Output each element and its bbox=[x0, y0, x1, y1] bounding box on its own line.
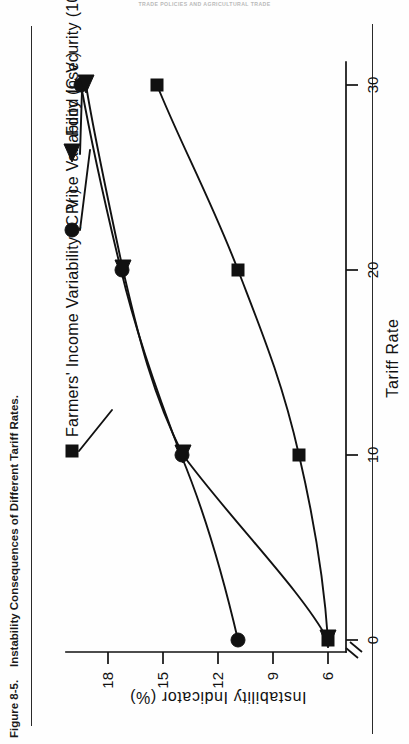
figure-caption: Figure 8-5. Instability Consequences of … bbox=[8, 395, 20, 738]
y-tick-label-15: 15 bbox=[154, 672, 171, 689]
chart-plot-area: 0 10 20 30 Tariff Rate 6 9 12 15 18 Inst… bbox=[46, 20, 398, 710]
x-ticks bbox=[346, 85, 358, 640]
x-tick-label-10: 10 bbox=[364, 447, 381, 464]
series-markers-farmers-income bbox=[151, 79, 334, 646]
y-tick-label-18: 18 bbox=[99, 672, 116, 689]
axis-break-marks bbox=[346, 642, 362, 658]
figure-caption-text: Instability Consequences of Different Ta… bbox=[8, 395, 20, 667]
y-ticks bbox=[108, 652, 328, 664]
figure-stage: Figure 8-5. Instability Consequences of … bbox=[0, 0, 409, 744]
legend-marker-square bbox=[66, 445, 78, 457]
x-tick-label-30: 30 bbox=[364, 77, 381, 94]
legend-leader-farmers bbox=[79, 410, 112, 451]
y-tick-label-6: 6 bbox=[319, 672, 336, 680]
y-tick-label-9: 9 bbox=[264, 672, 281, 680]
chart-svg: 0 10 20 30 Tariff Rate 6 9 12 15 18 Inst… bbox=[46, 20, 398, 710]
y-axis-title: Instability Indicator (%) bbox=[130, 689, 307, 706]
x-axis-title: Tariff Rate bbox=[384, 318, 401, 397]
x-tick-label-20: 20 bbox=[364, 262, 381, 279]
series-line-food-insecurity bbox=[86, 85, 328, 640]
legend: Food Insecurity (10 %) Price Variability… bbox=[64, 0, 112, 457]
legend-label-farmers-income: Farmers' Income Variability (C V ) bbox=[64, 188, 81, 437]
series-line-price-variability bbox=[81, 85, 238, 640]
legend-leader-price bbox=[80, 150, 90, 230]
y-tick-label-12: 12 bbox=[209, 672, 226, 689]
x-tick-label-0: 0 bbox=[364, 636, 381, 644]
figure-number: Figure 8-5. bbox=[8, 680, 20, 738]
series-markers-food-insecurity bbox=[78, 75, 336, 648]
legend-item-farmers-income: Farmers' Income Variability (C V ) bbox=[64, 188, 81, 457]
series-markers-price-variability bbox=[74, 78, 245, 647]
series-line-farmers-income bbox=[157, 85, 328, 640]
